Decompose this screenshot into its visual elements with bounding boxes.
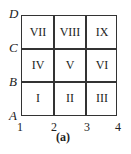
cell-i: I xyxy=(22,82,54,115)
y-label-b: B xyxy=(9,74,17,90)
cell-ii: II xyxy=(54,82,86,115)
y-label-d: D xyxy=(9,6,18,22)
x-label-4: 4 xyxy=(115,120,121,135)
cell-vii: VII xyxy=(22,16,54,49)
cell-vi: VI xyxy=(86,49,118,82)
x-label-1: 1 xyxy=(17,120,23,135)
y-label-a: A xyxy=(9,108,17,124)
cell-viii: VIII xyxy=(54,16,86,49)
cell-v: V xyxy=(54,49,86,82)
grid: VII VIII IX IV V VI I II III xyxy=(21,15,117,116)
cell-iv: IV xyxy=(22,49,54,82)
figure-caption: (a) xyxy=(56,130,70,145)
x-label-3: 3 xyxy=(84,120,90,135)
cell-ix: IX xyxy=(86,16,118,49)
y-label-c: C xyxy=(9,40,18,56)
cell-iii: III xyxy=(86,82,118,115)
